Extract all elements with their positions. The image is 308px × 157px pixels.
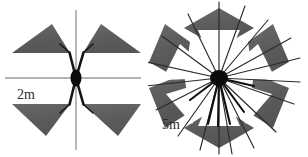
two-meter-rotor-svg	[0, 0, 145, 157]
figure-root: 2m 5m	[0, 0, 308, 157]
diagram-panel-left	[0, 0, 145, 157]
scale-label-two-meter: 2m	[17, 88, 35, 102]
hub-dot-icon-left	[71, 70, 82, 87]
scale-label-five-meter: 5m	[162, 118, 180, 132]
triangular-blade-icon-lower-right	[83, 104, 141, 136]
triangular-blade-icon-lower-left	[12, 104, 70, 136]
triangular-blade-icon-upper-right	[83, 24, 141, 53]
diagram-panel-right	[148, 0, 308, 157]
five-meter-rotor-svg	[148, 0, 308, 157]
hub-dot-icon-right	[210, 70, 228, 86]
triangular-blade-icon-upper-left	[12, 24, 70, 53]
